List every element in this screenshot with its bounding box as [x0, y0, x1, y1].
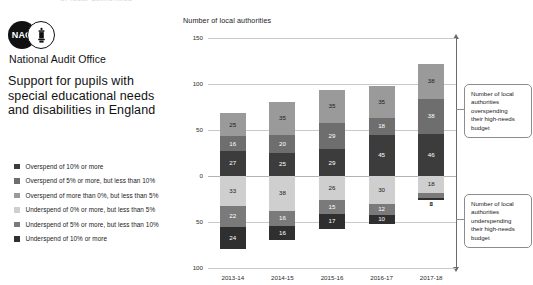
- bar-segment: 24: [220, 227, 246, 249]
- nao-logo: NAO: [8, 18, 180, 52]
- y-axis-tick-label: 50: [196, 126, 203, 133]
- cut-off-header-strip: of local authorities: [0, 0, 533, 14]
- bar-segment-value: 10: [378, 216, 385, 222]
- bar-segment-value: 20: [279, 141, 286, 147]
- bar-segment: 30: [369, 176, 395, 204]
- bar-segment: 45: [369, 135, 395, 176]
- page-title-line-2: special educational needs: [8, 89, 154, 103]
- left-panel: NAO National Audit Office Support for pu…: [8, 18, 180, 118]
- bar-segment-value: 25: [229, 122, 236, 128]
- y-axis-tick-label: 0: [200, 172, 203, 179]
- callout-underspending-line-2: authorities: [471, 208, 526, 216]
- chart-bar-2014-15: 352025381616: [269, 102, 295, 240]
- chart-bar-2017-18: 38384618: [418, 64, 444, 200]
- bar-segment: 33: [220, 176, 246, 206]
- legend-item: Overspend of 10% or more: [14, 159, 194, 174]
- callout-overspending-line-1: Number of local: [471, 90, 526, 98]
- callout-underspending-line-3: underspending: [471, 217, 526, 225]
- bar-segment: 20: [269, 135, 295, 153]
- bar-segment: 22: [220, 206, 246, 226]
- bar-segment-value: 17: [329, 218, 336, 224]
- callout-overspending-line-2: authorities: [471, 98, 526, 106]
- bar-segment: 38: [418, 99, 444, 134]
- callout-overspending-line-3: overspending: [471, 107, 526, 115]
- bar-segment-value: 38: [279, 190, 286, 196]
- legend-item-label: Overspend of 5% or more, but less than 1…: [26, 177, 156, 184]
- callout-overspending-line-5: budget: [471, 124, 526, 132]
- bar-segment-value: 38: [428, 113, 435, 119]
- legend-item-label: Overspend of 10% or more: [26, 163, 104, 170]
- bar-segment-value: 22: [229, 213, 236, 219]
- bar-segment-value: 38: [428, 78, 435, 84]
- bar-segment: [418, 198, 444, 200]
- bar-segment-value: 2: [418, 200, 444, 208]
- bar-segment: 17: [319, 214, 345, 230]
- bar-segment-value: 46: [428, 152, 435, 158]
- bar-segment: 25: [269, 153, 295, 176]
- legend-swatch-icon: [14, 222, 20, 228]
- bar-segment: 35: [269, 102, 295, 134]
- chart-container: Number of local authorities 150100500501…: [180, 16, 460, 284]
- chart-axis-title: Number of local authorities: [183, 16, 271, 25]
- legend-swatch-icon: [14, 207, 20, 213]
- bar-segment: 25: [220, 113, 246, 136]
- chart-plot-area: 150100500501002516273322242013-143520253…: [208, 38, 456, 268]
- legend-swatch-icon: [14, 178, 20, 184]
- callout-overspending-leader: [456, 109, 465, 110]
- bar-segment: 12: [369, 204, 395, 215]
- gridline: 150: [208, 38, 456, 39]
- chart-legend: Overspend of 10% or moreOverspend of 5% …: [14, 159, 194, 246]
- bar-segment-value: 12: [378, 206, 385, 212]
- nao-logo-mark: NAO: [8, 20, 60, 50]
- y-axis-tick-label: 100: [193, 264, 203, 271]
- bar-segment: 16: [269, 211, 295, 226]
- page-title-line-3: and disabilities in England: [8, 103, 155, 117]
- bar-segment: 38: [269, 176, 295, 211]
- bar-segment-value: 16: [279, 215, 286, 221]
- bar-segment-value: 35: [279, 115, 286, 121]
- legend-swatch-icon: [14, 164, 20, 170]
- bar-segment: 16: [220, 136, 246, 151]
- bar-segment-value: 35: [329, 103, 336, 109]
- bar-segment: 18: [418, 176, 444, 193]
- bar-segment-value: 18: [428, 181, 435, 187]
- bar-segment: 35: [319, 90, 345, 122]
- bar-segment-value: 26: [329, 185, 336, 191]
- legend-swatch-icon: [14, 236, 20, 242]
- legend-item: Overspend of 5% or more, but less than 1…: [14, 174, 194, 189]
- chart-bar-2016-17: 351845301210: [369, 86, 395, 224]
- cut-off-header-text: of local authorities: [60, 0, 132, 3]
- bar-segment: 26: [319, 176, 345, 200]
- callout-underspending-line-5: budget: [471, 234, 526, 242]
- bar-segment-value: 45: [378, 152, 385, 158]
- bar-segment-value: 33: [229, 188, 236, 194]
- legend-item-label: Underspend of 5% or more, but less than …: [26, 221, 159, 228]
- legend-item: Underspend of 0% or more, but less than …: [14, 203, 194, 218]
- bar-segment: 15: [319, 200, 345, 214]
- bar-segment-value: 35: [378, 99, 385, 105]
- legend-item-label: Underspend of 10% or more: [26, 235, 108, 242]
- bar-segment-value: 24: [229, 235, 236, 241]
- legend-swatch-icon: [14, 193, 20, 199]
- bar-segment-value: 16: [229, 141, 236, 147]
- bar-segment: 27: [220, 151, 246, 176]
- bar-segment: 38: [418, 64, 444, 99]
- page-title: Support for pupils with special educatio…: [8, 74, 180, 118]
- bar-segment: 35: [369, 86, 395, 118]
- legend-item: Overspend of more than 0%, but less than…: [14, 188, 194, 203]
- legend-item-label: Overspend of more than 0%, but less than…: [26, 192, 159, 199]
- royal-crest-glyph: [36, 27, 47, 43]
- page-title-line-1: Support for pupils with: [8, 74, 134, 88]
- bar-segment: 46: [418, 134, 444, 176]
- bar-segment-value: 18: [378, 123, 385, 129]
- bar-segment-value: 15: [329, 204, 336, 210]
- bar-segment-value: 30: [378, 187, 385, 193]
- bar-segment-value: 25: [279, 161, 286, 167]
- callout-underspending-line-4: their high-needs: [471, 225, 526, 233]
- x-axis-tick-label: 2017-18: [401, 274, 461, 281]
- bar-segment-value: 29: [329, 133, 336, 139]
- y-axis-tick-label: 50: [196, 218, 203, 225]
- y-axis-tick-label: 150: [193, 34, 203, 41]
- bar-segment-value: 16: [279, 230, 286, 236]
- callout-underspending-line-1: Number of local: [471, 200, 526, 208]
